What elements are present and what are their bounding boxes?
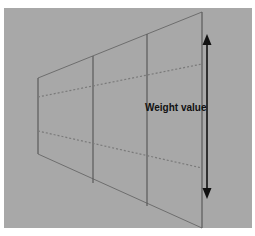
weight-value-diagram: Weight value (0, 0, 255, 236)
weight-value-label: Weight value (145, 102, 207, 113)
